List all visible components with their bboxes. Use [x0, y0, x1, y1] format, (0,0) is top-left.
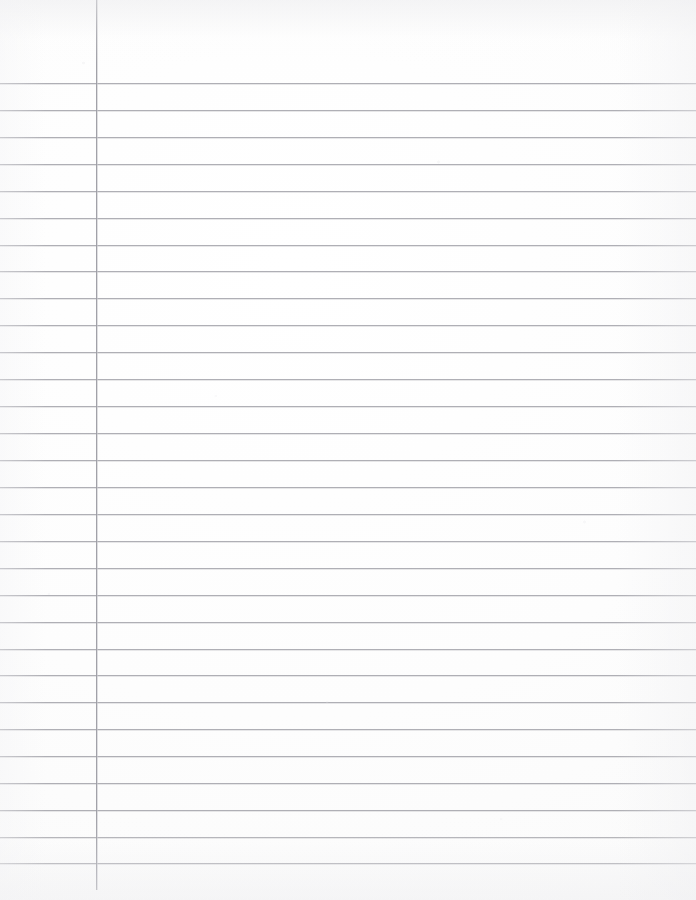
- writing-row[interactable]: [96, 271, 696, 298]
- left-margin-cell[interactable]: [0, 675, 96, 702]
- writing-row[interactable]: [96, 649, 696, 675]
- writing-row[interactable]: [96, 83, 696, 110]
- writing-row[interactable]: [96, 298, 696, 325]
- rule-line: [0, 863, 696, 864]
- left-margin-cell[interactable]: [0, 164, 96, 191]
- writing-row[interactable]: [96, 433, 696, 460]
- left-margin-cell[interactable]: [0, 514, 96, 541]
- writing-row[interactable]: [96, 245, 696, 271]
- left-margin-cell[interactable]: [0, 702, 96, 729]
- left-margin-cell[interactable]: [0, 622, 96, 649]
- left-margin-cell[interactable]: [0, 298, 96, 325]
- writing-row[interactable]: [96, 595, 696, 622]
- writing-row[interactable]: [96, 164, 696, 191]
- writing-row[interactable]: [96, 487, 696, 514]
- left-margin-cell[interactable]: [0, 783, 96, 810]
- left-margin-cell[interactable]: [0, 460, 96, 487]
- writing-row[interactable]: [96, 352, 696, 379]
- header-area[interactable]: [0, 0, 696, 83]
- writing-row[interactable]: [96, 783, 696, 810]
- left-margin-cell[interactable]: [0, 271, 96, 298]
- left-margin-cell[interactable]: [0, 406, 96, 433]
- writing-row[interactable]: [96, 137, 696, 164]
- left-margin-cell[interactable]: [0, 568, 96, 595]
- left-margin-cell[interactable]: [0, 137, 96, 164]
- notebook-page: [0, 0, 696, 900]
- left-margin-cell[interactable]: [0, 595, 96, 622]
- left-margin-cell[interactable]: [0, 541, 96, 568]
- left-margin-cell[interactable]: [0, 245, 96, 271]
- left-margin-cell[interactable]: [0, 218, 96, 245]
- left-margin-cell[interactable]: [0, 649, 96, 675]
- writing-row[interactable]: [96, 406, 696, 433]
- left-margin-cell[interactable]: [0, 191, 96, 218]
- left-margin-cell[interactable]: [0, 433, 96, 460]
- left-margin-cell[interactable]: [0, 379, 96, 406]
- left-margin-cell[interactable]: [0, 487, 96, 514]
- writing-row[interactable]: [96, 810, 696, 837]
- left-margin-cell[interactable]: [0, 810, 96, 837]
- writing-row[interactable]: [96, 514, 696, 541]
- writing-row[interactable]: [96, 622, 696, 649]
- left-margin-cell[interactable]: [0, 325, 96, 352]
- left-margin-cell[interactable]: [0, 756, 96, 783]
- left-margin-cell[interactable]: [0, 352, 96, 379]
- writing-row[interactable]: [96, 191, 696, 218]
- left-margin-cell[interactable]: [0, 110, 96, 137]
- writing-row[interactable]: [96, 541, 696, 568]
- writing-row[interactable]: [96, 460, 696, 487]
- writing-row[interactable]: [96, 756, 696, 783]
- writing-row[interactable]: [96, 675, 696, 702]
- writing-row[interactable]: [96, 568, 696, 595]
- writing-row[interactable]: [96, 729, 696, 756]
- left-margin-cell[interactable]: [0, 83, 96, 110]
- writing-row[interactable]: [96, 702, 696, 729]
- writing-row[interactable]: [96, 218, 696, 245]
- left-margin-cell[interactable]: [0, 729, 96, 756]
- left-margin-cell[interactable]: [0, 837, 96, 863]
- writing-row[interactable]: [96, 110, 696, 137]
- writing-row[interactable]: [96, 379, 696, 406]
- writing-row[interactable]: [96, 325, 696, 352]
- writing-row[interactable]: [96, 837, 696, 863]
